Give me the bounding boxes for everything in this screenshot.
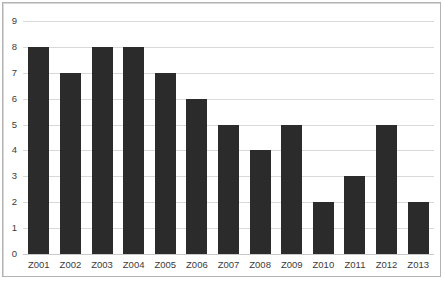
y-axis-tick-label: 1 (12, 223, 17, 233)
x-axis-tick-label: Z009 (276, 260, 307, 270)
x-axis-tick-label: Z013 (403, 260, 434, 270)
y-axis-tick-label: 0 (12, 249, 17, 259)
bar[interactable] (28, 47, 49, 254)
bar[interactable] (376, 125, 397, 254)
x-axis-tick-label: Z010 (308, 260, 339, 270)
x-axis-tick-label: Z008 (245, 260, 276, 270)
x-axis-tick-label: Z007 (213, 260, 244, 270)
bar[interactable] (123, 47, 144, 254)
bar[interactable] (92, 47, 113, 254)
y-axis-tick-label: 6 (12, 94, 17, 104)
x-axis-tick-labels: Z001Z002Z003Z004Z005Z006Z007Z008Z009Z010… (23, 257, 434, 275)
bar[interactable] (408, 202, 429, 254)
x-axis-tick-label: Z012 (371, 260, 402, 270)
x-axis-tick-label: Z006 (181, 260, 212, 270)
y-axis-tick-label: 4 (12, 145, 17, 155)
axis-baseline (23, 254, 434, 255)
bar[interactable] (186, 99, 207, 254)
bar[interactable] (218, 125, 239, 254)
bar[interactable] (313, 202, 334, 254)
y-axis-tick-label: 3 (12, 171, 17, 181)
bar[interactable] (344, 176, 365, 254)
x-axis-tick-label: Z001 (23, 260, 54, 270)
y-axis-tick-label: 5 (12, 120, 17, 130)
bar[interactable] (281, 125, 302, 254)
x-axis-tick-label: Z005 (150, 260, 181, 270)
bar[interactable] (60, 73, 81, 254)
y-axis-tick-label: 7 (12, 68, 17, 78)
chart-frame: 0123456789 Z001Z002Z003Z004Z005Z006Z007Z… (2, 2, 441, 277)
x-axis-tick-label: Z011 (339, 260, 370, 270)
x-axis-tick-label: Z003 (87, 260, 118, 270)
y-axis-tick-label: 2 (12, 197, 17, 207)
x-axis-tick-label: Z004 (118, 260, 149, 270)
y-axis-tick-label: 9 (12, 16, 17, 26)
y-axis-tick-label: 8 (12, 42, 17, 52)
plot-area: 0123456789 (23, 21, 434, 254)
bar[interactable] (155, 73, 176, 254)
bars-group (23, 21, 434, 254)
x-axis-tick-label: Z002 (55, 260, 86, 270)
bar[interactable] (250, 150, 271, 254)
